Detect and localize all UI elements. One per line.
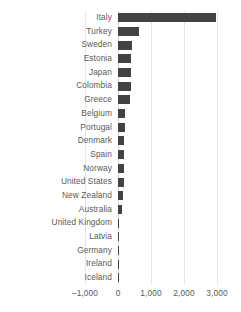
bar-track: [0, 244, 241, 258]
bar[interactable]: [118, 260, 119, 269]
bar-track: [0, 257, 241, 271]
bar-track: [0, 25, 241, 39]
bar-track: [0, 107, 241, 121]
bar-row: Turkey: [0, 25, 241, 39]
bar[interactable]: [118, 13, 216, 22]
bar-row: Ireland: [0, 257, 241, 271]
bar-row: United Kingdom: [0, 216, 241, 230]
bar-chart: ItalyTurkeySwedenEstoniaJapanColombiaGre…: [0, 0, 241, 312]
bar[interactable]: [118, 219, 119, 228]
bar-row: Denmark: [0, 134, 241, 148]
bar-row: Italy: [0, 11, 241, 25]
bar-track: [0, 134, 241, 148]
x-axis: –1,00001,0002,0003,000: [0, 288, 241, 304]
x-tick-label: 1,000: [140, 288, 161, 298]
bar[interactable]: [118, 136, 124, 145]
bar[interactable]: [118, 41, 132, 50]
bar-row: Sweden: [0, 38, 241, 52]
bar-rows: ItalyTurkeySwedenEstoniaJapanColombiaGre…: [0, 11, 241, 285]
x-tick-label: 3,000: [206, 288, 227, 298]
bar-row: New Zealand: [0, 189, 241, 203]
bar[interactable]: [118, 178, 124, 187]
bar[interactable]: [118, 191, 123, 200]
bar-track: [0, 162, 241, 176]
bar-row: Norway: [0, 162, 241, 176]
bar[interactable]: [118, 123, 125, 132]
bar[interactable]: [118, 232, 119, 241]
bar[interactable]: [118, 109, 125, 118]
bar-track: [0, 38, 241, 52]
bar-row: United States: [0, 175, 241, 189]
bar-row: Colombia: [0, 79, 241, 93]
x-tick-label: 2,000: [173, 288, 194, 298]
plot-area: ItalyTurkeySwedenEstoniaJapanColombiaGre…: [0, 0, 241, 312]
bar-track: [0, 189, 241, 203]
bar[interactable]: [118, 150, 124, 159]
bar-track: [0, 148, 241, 162]
bar[interactable]: [118, 273, 119, 282]
bar-row: Belgium: [0, 107, 241, 121]
bar-track: [0, 93, 241, 107]
bar-track: [0, 11, 241, 25]
bar-track: [0, 271, 241, 285]
bar[interactable]: [118, 246, 119, 255]
bar-track: [0, 66, 241, 80]
bar[interactable]: [118, 205, 122, 214]
bar[interactable]: [118, 82, 131, 91]
bar-row: Iceland: [0, 271, 241, 285]
bar-track: [0, 230, 241, 244]
bar-row: Latvia: [0, 230, 241, 244]
x-tick-label: 0: [116, 288, 121, 298]
bar-row: Spain: [0, 148, 241, 162]
bar[interactable]: [118, 27, 139, 36]
bar-track: [0, 52, 241, 66]
bar-row: Japan: [0, 66, 241, 80]
bar-row: Greece: [0, 93, 241, 107]
x-tick-label: –1,000: [72, 288, 98, 298]
bar-row: Estonia: [0, 52, 241, 66]
bar[interactable]: [118, 54, 131, 63]
bar[interactable]: [118, 164, 124, 173]
bar-track: [0, 121, 241, 135]
bar[interactable]: [118, 68, 131, 77]
bar-track: [0, 216, 241, 230]
bar-row: Portugal: [0, 121, 241, 135]
bar[interactable]: [118, 95, 130, 104]
bar-track: [0, 79, 241, 93]
bar-track: [0, 175, 241, 189]
bar-row: Australia: [0, 203, 241, 217]
bar-track: [0, 203, 241, 217]
bar-row: Germany: [0, 244, 241, 258]
